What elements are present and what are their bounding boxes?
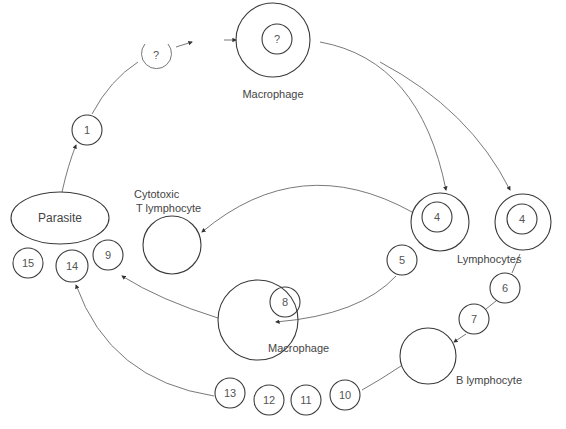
lymphocyte-right: 4 xyxy=(495,194,551,250)
node-1: 1 xyxy=(72,115,102,145)
node-2: ? xyxy=(142,44,172,69)
arrow-2-to-macrophage xyxy=(176,42,192,47)
svg-text:7: 7 xyxy=(471,313,477,325)
svg-text:12: 12 xyxy=(263,394,275,406)
arrow-13-to-14 xyxy=(76,285,214,396)
arrow-parasite-to-1 xyxy=(62,145,76,192)
b-lymphocyte-label: B lymphocyte xyxy=(456,374,522,386)
line-6-to-7 xyxy=(486,301,496,309)
svg-text:?: ? xyxy=(274,33,280,45)
node-6: 6 xyxy=(490,273,520,303)
svg-text:10: 10 xyxy=(339,389,351,401)
diagram-svg: Parasite 1 ? ? Macrophage Cytotoxic T ly… xyxy=(0,0,566,429)
arrow-macrophage-to-lymph-right xyxy=(380,62,510,190)
svg-text:8: 8 xyxy=(282,296,288,308)
node-15: 15 xyxy=(13,248,43,278)
parasite-node: Parasite xyxy=(11,192,109,244)
cytotoxic-t-lymphocyte: Cytotoxic T lymphocyte xyxy=(134,188,201,274)
lymphocyte-left: 4 xyxy=(411,193,469,251)
node-10: 10 xyxy=(330,380,360,410)
arrow-macrophage-to-9 xyxy=(122,276,218,318)
svg-text:15: 15 xyxy=(22,257,34,269)
node-14: 14 xyxy=(56,250,88,282)
macrophage-top-label: Macrophage xyxy=(242,88,303,100)
svg-text:4: 4 xyxy=(519,213,525,225)
svg-text:4: 4 xyxy=(434,211,440,223)
macrophage-mid-label: Macrophage xyxy=(268,342,329,354)
node-13: 13 xyxy=(215,378,245,408)
node-8: 8 xyxy=(270,287,300,317)
parasite-label: Parasite xyxy=(38,211,82,225)
arrow-macrophage-to-lymph-left xyxy=(320,42,446,190)
svg-text:11: 11 xyxy=(300,394,311,406)
immune-cycle-diagram: Parasite 1 ? ? Macrophage Cytotoxic T ly… xyxy=(0,0,566,429)
svg-text:6: 6 xyxy=(502,282,508,294)
macrophage-top: ? Macrophage xyxy=(236,3,310,100)
svg-text:5: 5 xyxy=(399,254,405,266)
node-11: 11 xyxy=(291,385,321,415)
line-b-lymph-to-10 xyxy=(362,366,401,390)
svg-text:?: ? xyxy=(153,49,159,61)
node-12: 12 xyxy=(254,385,284,415)
node-7: 7 xyxy=(459,304,489,334)
node-5: 5 xyxy=(387,245,417,275)
b-lymphocyte: B lymphocyte xyxy=(400,328,522,386)
node-9: 9 xyxy=(93,240,123,270)
cytotoxic-circle xyxy=(143,216,201,274)
cytotoxic-label-line1: Cytotoxic xyxy=(134,188,180,200)
lymphocytes-label: Lymphocytes xyxy=(457,253,522,265)
svg-text:1: 1 xyxy=(84,124,90,136)
svg-text:14: 14 xyxy=(66,260,78,272)
cytotoxic-label-line2: T lymphocyte xyxy=(136,202,201,214)
arrow-lymph-to-cytotoxic xyxy=(202,185,412,232)
arrow-7-to-b-lymph xyxy=(454,334,466,342)
svg-text:13: 13 xyxy=(224,387,236,399)
svg-text:9: 9 xyxy=(105,249,111,261)
b-lymphocyte-circle xyxy=(400,328,456,384)
arrow-5-to-macrophage xyxy=(276,276,396,322)
arrow-1-to-2 xyxy=(92,62,138,114)
